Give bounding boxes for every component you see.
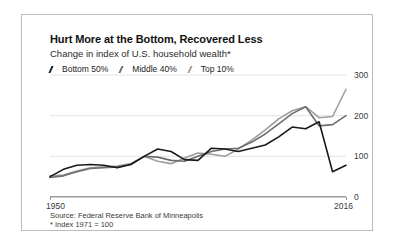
y-axis-tick-label: 300 [354, 70, 368, 80]
x-axis-tick-label: 1950 [46, 201, 65, 211]
legend-label: Top 10% [201, 64, 234, 74]
x-axis-line [50, 196, 346, 197]
source-text: Source: Federal Reserve Bank of Minneapo… [50, 211, 203, 220]
y-axis-tick-label: 100 [354, 151, 368, 161]
legend-line-icon [49, 65, 58, 74]
chart-svg [50, 75, 346, 197]
y-axis-tick-label: 0 [354, 192, 359, 202]
legend-item-bottom-50[interactable]: Bottom 50% [49, 64, 108, 74]
legend-line-icon [188, 65, 197, 74]
legend-item-top-10[interactable]: Top 10% [188, 64, 234, 74]
legend-item-middle-40[interactable]: Middle 40% [119, 64, 176, 74]
series-line [50, 89, 346, 176]
legend-label: Bottom 50% [62, 64, 108, 74]
chart-subtitle: Change in index of U.S. household wealth… [50, 48, 231, 59]
x-axis-tick-mark [346, 197, 347, 200]
y-axis-tick-label: 200 [354, 111, 368, 121]
chart-title: Hurt More at the Bottom, Recovered Less [50, 33, 262, 45]
plot-area [50, 75, 346, 197]
footnote-text: * Index 1971 = 100 [50, 220, 113, 229]
x-axis-tick-mark [50, 197, 51, 200]
chart-card: Hurt More at the Bottom, Recovered Less … [21, 14, 373, 231]
chart-legend: Bottom 50% Middle 40% Top 10% [49, 64, 234, 74]
chart-inner: Hurt More at the Bottom, Recovered Less … [22, 15, 372, 230]
x-axis-tick-label: 2016 [334, 201, 353, 211]
legend-label: Middle 40% [132, 64, 176, 74]
legend-line-icon [119, 65, 128, 74]
